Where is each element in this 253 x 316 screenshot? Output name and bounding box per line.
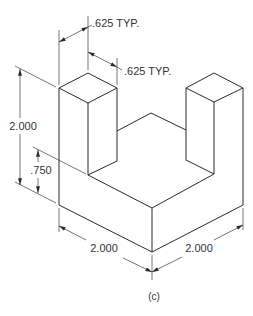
right-pillar-inner-bottom [186,160,214,174]
figure-caption: (c) [148,291,160,302]
dim-base-left-width: 2.000 [59,208,152,280]
floor-left-edge [88,175,152,208]
dim-label-overall-height: 2.000 [9,120,37,132]
left-pillar-inner-bottom [88,161,117,175]
dim-base-height: .750 [30,147,86,193]
dim-label-base-height: .750 [30,164,51,176]
back-wall-top [117,113,186,131]
dim-overall-height: 2.000 [9,66,56,203]
floor-right-edge [152,174,214,208]
dim-label-base-left-width: 2.000 [90,242,118,254]
dim-pillar-depth: .625 TYP. [88,52,171,85]
left-pillar-top-face [59,73,117,103]
dim-base-right-width: 2.000 [152,208,243,272]
isometric-drawing: .625 TYP. .625 TYP. 2.000 .750 2.000 2.0… [0,0,253,316]
dim-label-base-right-width: 2.000 [185,242,213,254]
object-outline [59,73,243,252]
dim-label-pillar-width: .625 TYP. [92,17,139,29]
dim-label-pillar-depth: .625 TYP. [124,65,171,77]
right-pillar-top-face [186,73,243,102]
